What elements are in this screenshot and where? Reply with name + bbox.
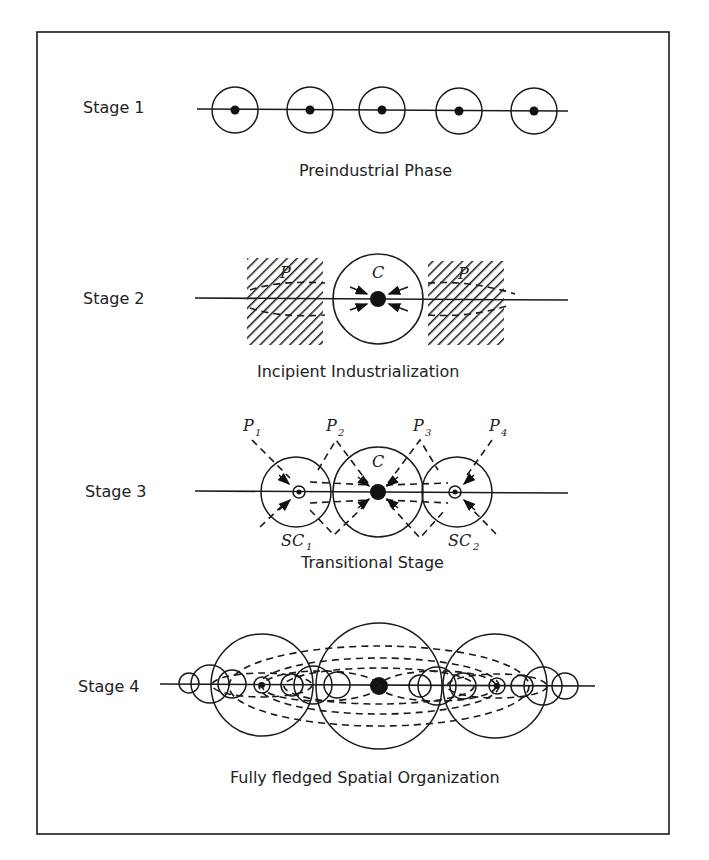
stage-3-label: Stage 3	[85, 482, 147, 501]
svg-text:2: 2	[337, 427, 344, 438]
stage-2: Stage 2 C P P Incipient Industrializatio…	[83, 254, 568, 381]
periphery-label-left: P	[279, 263, 291, 282]
svg-text:1: 1	[306, 541, 312, 552]
svg-text:4: 4	[500, 427, 507, 438]
stage-1: Stage 1 Preindustrial Phase	[83, 87, 568, 180]
stage-2-caption: Incipient Industrialization	[257, 362, 459, 381]
svg-text:3: 3	[425, 427, 431, 438]
spatial-organization-diagram: Stage 1 Preindustrial Phase Stage 2 C P …	[0, 0, 709, 860]
stage-4-label: Stage 4	[78, 677, 140, 696]
stage-3: Stage 3 C P 1 P 2 P 3	[85, 416, 568, 572]
subcenter-label-2: SC	[448, 531, 471, 550]
periphery-label-right: P	[457, 264, 469, 283]
stage-3-caption: Transitional Stage	[300, 553, 444, 572]
core-label: C	[372, 452, 384, 471]
core-label: C	[372, 263, 384, 282]
subcenter-label-1: SC	[281, 531, 304, 550]
stage-1-caption: Preindustrial Phase	[299, 161, 452, 180]
periphery-label-3: P	[412, 416, 424, 435]
stage-4-caption: Fully fledged Spatial Organization	[230, 768, 500, 787]
svg-text:2: 2	[472, 541, 479, 552]
stage-4: Stage 4 Fully fledged Spatial Organizati…	[78, 623, 595, 787]
svg-text:1: 1	[255, 427, 261, 438]
figure-frame	[37, 32, 669, 834]
stage-1-label: Stage 1	[83, 98, 145, 117]
stage-2-label: Stage 2	[83, 289, 145, 308]
periphery-label-2: P	[325, 416, 337, 435]
core-center	[370, 484, 386, 500]
core-center	[370, 291, 386, 307]
periphery-label-1: P	[242, 416, 254, 435]
periphery-label-4: P	[488, 416, 500, 435]
